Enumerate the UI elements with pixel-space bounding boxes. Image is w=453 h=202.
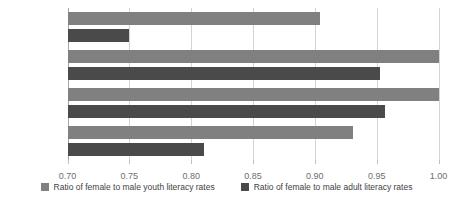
literacy-ratio-bar-chart: 0.700.750.800.850.900.951.00South AsiaEa…	[0, 0, 453, 202]
x-tick-mark-0.90	[315, 160, 316, 164]
bar	[68, 29, 130, 42]
bar	[68, 50, 439, 63]
legend-label-youth: Ratio of female to male youth literacy r…	[54, 182, 215, 192]
x-tick-mark-0.75	[129, 160, 130, 164]
legend-swatch-youth-icon	[41, 183, 49, 191]
legend-item-adult[interactable]: Ratio of female to male adult literacy r…	[241, 182, 413, 192]
x-tick-mark-0.80	[191, 160, 192, 164]
plot-area: 0.700.750.800.850.900.951.00South AsiaEa…	[68, 8, 439, 160]
legend-item-youth[interactable]: Ratio of female to male youth literacy r…	[41, 182, 215, 192]
x-tick-mark-1.00	[439, 160, 440, 164]
x-tick-label-0.95: 0.95	[357, 171, 397, 181]
gridline-1.00	[439, 8, 440, 160]
x-tick-label-0.75: 0.75	[109, 171, 149, 181]
bar	[68, 12, 320, 25]
legend-label-adult: Ratio of female to male adult literacy r…	[254, 182, 413, 192]
bar-group: Southeast Asia	[68, 88, 439, 118]
x-tick-label-0.85: 0.85	[233, 171, 273, 181]
x-tick-label-0.70: 0.70	[48, 171, 88, 181]
bar-group: Pacific	[68, 126, 439, 156]
bar	[68, 67, 381, 80]
x-tick-mark-0.70	[68, 160, 69, 164]
x-tick-label-0.80: 0.80	[171, 171, 211, 181]
x-tick-mark-0.85	[253, 160, 254, 164]
bar	[68, 105, 386, 118]
bar-group: South Asia	[68, 12, 439, 42]
x-tick-mark-0.95	[377, 160, 378, 164]
bar	[68, 88, 439, 101]
chart-legend: Ratio of female to male youth literacy r…	[0, 182, 453, 192]
bar-group: East Asia	[68, 50, 439, 80]
bar	[68, 126, 354, 139]
x-tick-label-0.90: 0.90	[295, 171, 335, 181]
x-tick-label-1.00: 1.00	[419, 171, 453, 181]
bar	[68, 143, 204, 156]
legend-swatch-adult-icon	[241, 183, 249, 191]
